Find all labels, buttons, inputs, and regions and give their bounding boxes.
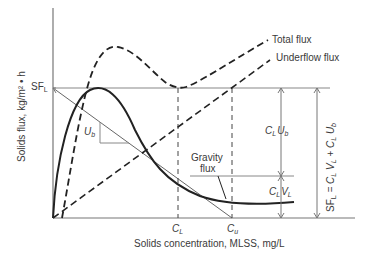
- underflow-flux-label: Underflow flux: [276, 52, 339, 63]
- underflow-flux-line: [53, 60, 270, 218]
- ub-label: Ub: [84, 126, 95, 138]
- total-flux-curve: [62, 40, 268, 218]
- total-flux-label: Total flux: [272, 34, 311, 45]
- sfl-equation-label: SFL = CL VL + CL Ub: [325, 123, 337, 212]
- cl-axis-label: CL: [172, 223, 183, 235]
- gravity-flux-label-line2: flux: [200, 163, 216, 174]
- club-label: CLUb: [265, 125, 288, 137]
- y-axis-label: Solids flux, kg/m² • h: [16, 71, 27, 162]
- solids-flux-diagram: Total flux Underflow flux SFL Ub Gravity…: [0, 0, 367, 261]
- x-axis-label: Solids concentration, MLSS, mg/L: [134, 238, 285, 249]
- gravity-flux-label-line1: Gravity: [191, 152, 223, 163]
- clvl-label: CLVL: [269, 186, 292, 198]
- gravity-flux-curve: [53, 88, 294, 218]
- gravity-flux-pointer: [218, 176, 226, 199]
- cu-axis-label: Cu: [227, 223, 238, 235]
- sfl-label: SFL: [31, 81, 48, 93]
